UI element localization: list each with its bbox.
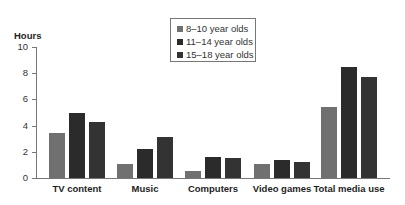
y-tick-mark <box>32 126 36 127</box>
bar <box>137 149 153 178</box>
x-category-label: Computers <box>173 183 253 194</box>
bar <box>157 137 173 178</box>
bar <box>341 67 357 178</box>
legend-label: 15–18 year olds <box>186 49 254 60</box>
bar <box>185 171 201 178</box>
y-tick-mark <box>32 178 36 179</box>
x-axis-line <box>32 178 390 179</box>
bar <box>117 164 133 178</box>
y-tick-mark <box>32 99 36 100</box>
bar <box>294 162 310 178</box>
y-tick-label: 2 <box>8 146 28 157</box>
y-tick-label: 10 <box>8 41 28 52</box>
y-axis-line <box>36 47 37 178</box>
y-axis-label: Hours <box>14 30 41 41</box>
legend-item: 8–10 year olds <box>177 22 255 35</box>
bar <box>205 157 221 178</box>
bar <box>49 133 65 178</box>
y-tick-mark <box>32 47 36 48</box>
legend-label: 8–10 year olds <box>186 23 248 34</box>
y-tick-label: 6 <box>8 93 28 104</box>
bar-chart: Hours 0246810 TV contentMusicComputersVi… <box>0 0 405 205</box>
legend-swatch-icon <box>177 39 183 45</box>
legend-label: 11–14 year olds <box>186 36 253 47</box>
bar <box>321 107 337 178</box>
bar <box>69 113 85 179</box>
bar <box>254 164 270 178</box>
y-tick-label: 8 <box>8 67 28 78</box>
legend-item: 15–18 year olds <box>177 48 255 61</box>
y-tick-mark <box>32 152 36 153</box>
y-tick-label: 4 <box>8 120 28 131</box>
legend-swatch-icon <box>177 26 183 32</box>
bar <box>89 122 105 178</box>
y-tick-mark <box>32 73 36 74</box>
legend: 8–10 year olds11–14 year olds15–18 year … <box>170 18 256 62</box>
y-tick-label: 0 <box>8 172 28 183</box>
bar <box>225 158 241 178</box>
x-category-label: Total media use <box>309 183 389 194</box>
bar <box>274 160 290 178</box>
bar <box>361 77 377 178</box>
legend-item: 11–14 year olds <box>177 35 255 48</box>
legend-swatch-icon <box>177 52 183 58</box>
